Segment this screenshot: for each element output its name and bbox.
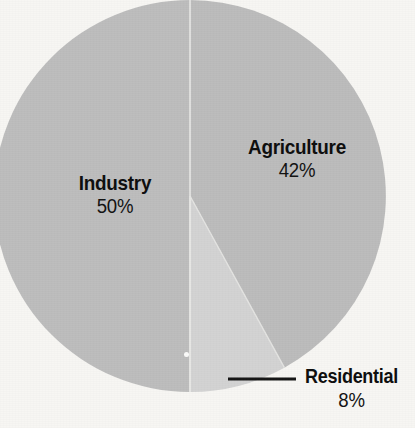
slice-label-industry: Industry 50%: [38, 172, 192, 217]
slice-label-residential-name: Residential: [294, 366, 408, 387]
slice-label-agriculture: Agriculture 42%: [214, 136, 380, 181]
slice-label-industry-name: Industry: [46, 172, 185, 194]
slice-label-agriculture-name: Agriculture: [222, 136, 371, 158]
slice-label-industry-value: 50%: [43, 196, 186, 217]
pie-chart-figure: Industry 50% Agriculture 42% Residential…: [0, 0, 415, 428]
scan-artifact-dot: [184, 352, 189, 357]
slice-label-agriculture-value: 42%: [220, 160, 374, 181]
slice-label-residential-value: 8%: [292, 390, 410, 411]
slice-label-residential: Residential 8%: [288, 366, 415, 411]
